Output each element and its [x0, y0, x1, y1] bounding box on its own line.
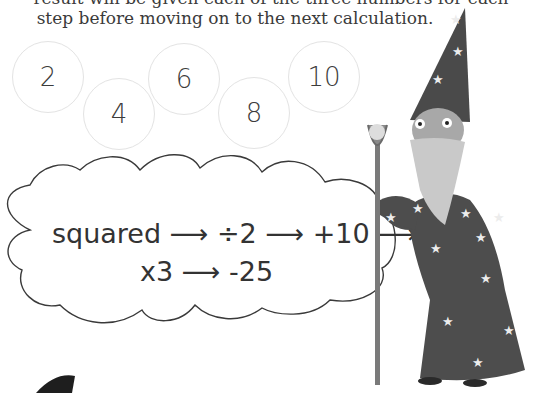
- partial-character-bottom: [0, 0, 542, 393]
